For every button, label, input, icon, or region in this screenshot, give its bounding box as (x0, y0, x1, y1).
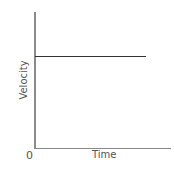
y-axis (34, 12, 36, 149)
constant-velocity-line (35, 56, 146, 58)
y-axis-label: Velocity (18, 60, 30, 99)
x-axis-label: Time (92, 149, 116, 161)
velocity-time-chart: 0 Time Velocity (0, 0, 174, 178)
origin-label: 0 (26, 150, 33, 162)
